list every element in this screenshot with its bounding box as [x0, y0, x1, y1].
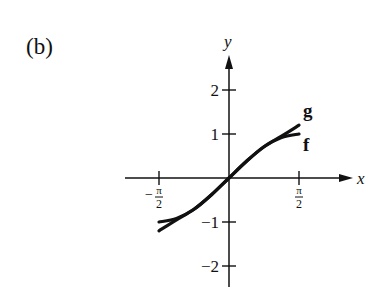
x-tick-label: π2: [295, 184, 303, 211]
svg-text:2: 2: [156, 197, 162, 211]
svg-text:π: π: [296, 184, 302, 196]
x-tick-label: −π2: [145, 184, 163, 211]
svg-text:−: −: [145, 187, 153, 202]
y-axis-arrow-icon: [225, 55, 233, 69]
x-axis-label: x: [356, 169, 365, 188]
x-axis-arrow-icon: [339, 174, 353, 182]
y-tick-label: −2: [201, 257, 219, 276]
y-tick-label: 2: [211, 81, 220, 100]
curve-labels: fg: [303, 100, 313, 155]
svg-text:π: π: [156, 184, 162, 196]
y-tick-label: 1: [211, 125, 220, 144]
curve-label-g: g: [303, 100, 313, 121]
function-plot: (b) x y −π2π221−1−2 fg: [0, 0, 381, 297]
y-tick-label: −1: [201, 213, 219, 232]
svg-text:2: 2: [296, 197, 302, 211]
panel-label: (b): [26, 34, 53, 59]
curve-label-f: f: [303, 134, 310, 155]
y-axis-label: y: [222, 32, 232, 51]
axes: [125, 64, 345, 287]
